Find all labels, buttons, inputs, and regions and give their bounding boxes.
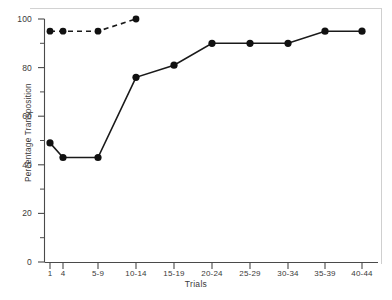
x-tick-label-5-9: 5-9 bbox=[92, 269, 104, 278]
series-lower-solid-line bbox=[50, 31, 362, 157]
series-upper-dashed-markers bbox=[47, 16, 140, 35]
y-tick-label-0: 0 bbox=[8, 257, 32, 267]
chart-figure: 100 80 60 40 20 0 1 4 5-9 10-14 15-19 20… bbox=[0, 0, 392, 300]
y-minor-ticks bbox=[40, 43, 45, 237]
x-tick-label-30-34: 30-34 bbox=[277, 269, 298, 278]
x-tick-label-1: 1 bbox=[48, 269, 53, 278]
plot-area bbox=[0, 0, 392, 300]
x-tick-label-35-39: 35-39 bbox=[314, 269, 335, 278]
x-axis-title: Trials bbox=[0, 279, 392, 289]
x-tick-label-20-24: 20-24 bbox=[201, 269, 222, 278]
x-tick-label-4: 4 bbox=[61, 269, 66, 278]
x-tick-label-15-19: 15-19 bbox=[163, 269, 184, 278]
y-tick-label-100: 100 bbox=[8, 14, 32, 24]
x-tick-label-10-14: 10-14 bbox=[125, 269, 146, 278]
y-axis-title: Percentage Transposition bbox=[24, 58, 33, 208]
x-tick-label-40-44: 40-44 bbox=[351, 269, 372, 278]
x-tick-label-25-29: 25-29 bbox=[239, 269, 260, 278]
y-tick-label-20: 20 bbox=[8, 208, 32, 218]
